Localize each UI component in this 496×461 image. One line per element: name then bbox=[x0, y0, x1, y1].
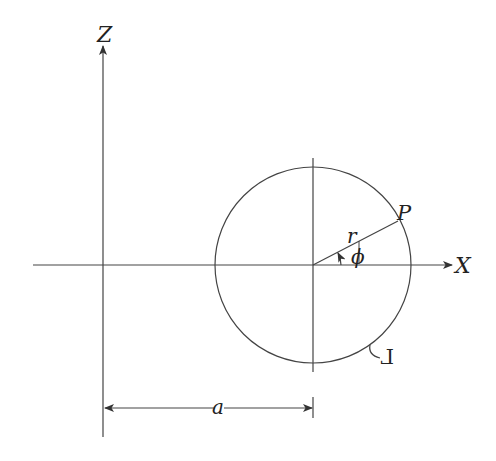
x-axis-label: X bbox=[453, 253, 472, 278]
angle-arc bbox=[338, 253, 341, 265]
distance-label: a bbox=[212, 395, 224, 419]
angle-label: ϕ bbox=[351, 245, 365, 269]
diagram-canvas: X Z r P ϕ Γ a bbox=[0, 0, 496, 461]
point-p-label: P bbox=[396, 201, 412, 225]
gamma-label: Γ bbox=[380, 344, 394, 368]
gamma-leader bbox=[370, 345, 380, 358]
z-axis-label: Z bbox=[96, 22, 113, 47]
